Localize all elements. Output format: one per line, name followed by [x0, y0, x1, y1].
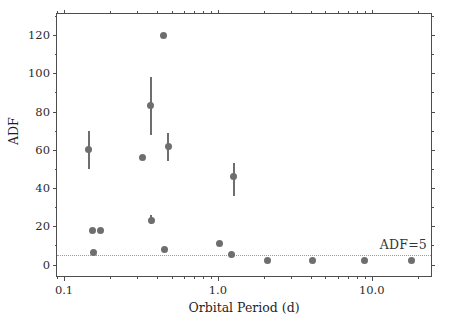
x-axis-tick-top [418, 11, 419, 14]
y-axis-tick-right [431, 169, 434, 170]
x-axis-tick [338, 276, 339, 279]
y-axis-tick-right [431, 226, 435, 227]
y-axis-tick-right [431, 207, 434, 208]
y-axis-tick [53, 35, 57, 36]
y-axis-tick-right [431, 112, 435, 113]
x-axis-tick-top [211, 11, 212, 14]
x-axis-tick [325, 276, 326, 279]
x-axis-tick-top [110, 11, 111, 14]
data-point [309, 257, 316, 264]
x-axis-tick [64, 276, 65, 281]
data-point [148, 217, 155, 224]
x-axis-tick-top [64, 10, 65, 15]
y-axis-tick-right [431, 16, 434, 17]
y-axis-tick [53, 226, 57, 227]
y-axis-tick-label: 40 [35, 181, 50, 195]
y-axis-tick [55, 169, 58, 170]
data-point [216, 240, 223, 247]
y-axis-tick-right [431, 245, 434, 246]
x-axis-tick-top [218, 10, 219, 15]
data-point [408, 257, 415, 264]
y-axis-tick [53, 150, 57, 151]
data-point [90, 249, 97, 256]
data-point [89, 227, 96, 234]
x-axis-tick [311, 276, 312, 279]
x-axis-tick-top [203, 11, 204, 14]
y-axis-tick-label: 0 [43, 258, 50, 272]
data-point [85, 146, 92, 153]
y-axis-tick [55, 54, 58, 55]
plot-area: 0204060801001200.11.010.0ADF=5 [57, 14, 431, 276]
x-axis-tick [291, 276, 292, 279]
y-axis-title: ADF [6, 117, 21, 145]
y-axis-tick-label: 80 [35, 105, 50, 119]
x-axis-tick-top [264, 11, 265, 14]
y-axis-tick-right [431, 188, 435, 189]
data-point [160, 32, 167, 39]
data-point [147, 102, 154, 109]
data-point [139, 154, 146, 161]
x-axis-tick [172, 276, 173, 279]
x-axis-tick [194, 276, 195, 279]
y-axis-tick-right [431, 150, 435, 151]
x-axis-tick [357, 276, 358, 279]
y-axis-tick-right [431, 54, 434, 55]
x-axis-tick-top [348, 11, 349, 14]
data-point [161, 246, 168, 253]
x-axis-tick-top [157, 11, 158, 14]
y-axis-tick [55, 245, 58, 246]
x-axis-tick-label: 1.0 [209, 283, 227, 297]
plot-frame: 0204060801001200.11.010.0ADF=5 [56, 13, 432, 277]
x-axis-tick [184, 276, 185, 279]
y-axis-tick-right [431, 265, 435, 266]
threshold-line [57, 255, 431, 256]
x-axis-tick [110, 276, 111, 279]
x-axis-tick [218, 276, 219, 281]
x-axis-tick-top [172, 11, 173, 14]
x-axis-tick-top [311, 11, 312, 14]
y-axis-tick-label: 100 [28, 66, 50, 80]
x-axis-tick [348, 276, 349, 279]
x-axis-tick-top [357, 11, 358, 14]
y-axis-tick-right [431, 92, 434, 93]
x-axis-tick [372, 276, 373, 281]
y-axis-tick-right [431, 131, 434, 132]
y-axis-tick [55, 207, 58, 208]
y-axis-tick-label: 20 [35, 219, 50, 233]
x-axis-tick-top [325, 11, 326, 14]
data-point [264, 257, 271, 264]
x-axis-tick [157, 276, 158, 279]
y-axis-tick [53, 188, 57, 189]
x-axis-tick [137, 276, 138, 279]
y-axis-tick [55, 92, 58, 93]
x-axis-tick-top [137, 11, 138, 14]
x-axis-tick-top [372, 10, 373, 15]
x-axis-tick-label: 0.1 [55, 283, 73, 297]
data-point [361, 257, 368, 264]
x-axis-tick-top [338, 11, 339, 14]
y-axis-tick [55, 131, 58, 132]
x-axis-tick-top [194, 11, 195, 14]
data-point [228, 251, 235, 258]
y-axis-tick [53, 265, 57, 266]
scatter-chart-figure: 0204060801001200.11.010.0ADF=5 Orbital P… [0, 0, 451, 322]
x-axis-tick-top [57, 11, 58, 14]
data-point [97, 227, 104, 234]
x-axis-tick-top [184, 11, 185, 14]
y-axis-tick [53, 112, 57, 113]
y-axis-tick-label: 60 [35, 143, 50, 157]
y-axis-tick [55, 16, 58, 17]
x-axis-tick [211, 276, 212, 279]
x-axis-tick [203, 276, 204, 279]
x-axis-tick-label: 10.0 [359, 283, 385, 297]
data-point [165, 143, 172, 150]
x-axis-tick [365, 276, 366, 279]
x-axis-tick-top [365, 11, 366, 14]
x-axis-tick [418, 276, 419, 279]
x-axis-title: Orbital Period (d) [56, 300, 432, 315]
x-axis-tick [57, 276, 58, 279]
x-axis-tick-top [291, 11, 292, 14]
y-axis-tick [53, 73, 57, 74]
y-axis-tick-right [431, 35, 435, 36]
data-point [230, 173, 237, 180]
